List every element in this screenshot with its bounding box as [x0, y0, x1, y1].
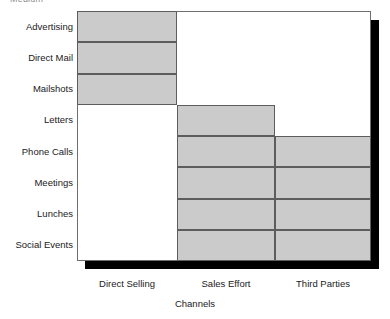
x-axis-title: Channels — [0, 298, 390, 309]
matrix-cell-filled — [275, 136, 371, 167]
row-label: Direct Mail — [0, 53, 73, 63]
row-label: Letters — [0, 115, 73, 125]
matrix-cell-empty — [275, 74, 371, 105]
matrix-cell-filled — [177, 199, 275, 230]
matrix-cell-filled — [77, 42, 177, 73]
chart-shadow-bottom — [85, 261, 379, 269]
row-label: Meetings — [0, 178, 73, 188]
matrix-cell-empty — [275, 11, 371, 42]
matrix-cell-empty — [77, 199, 177, 230]
row-label: Phone Calls — [0, 147, 73, 157]
row-label: Advertising — [0, 22, 73, 32]
matrix-cell-filled — [275, 230, 371, 261]
matrix-cell-empty — [275, 42, 371, 73]
matrix-cell-empty — [177, 74, 275, 105]
matrix-cell-empty — [77, 105, 177, 136]
row-label: Mailshots — [0, 84, 73, 94]
matrix-cell-filled — [77, 74, 177, 105]
matrix-cell-filled — [177, 136, 275, 167]
matrix-cell-empty — [177, 11, 275, 42]
matrix-cell-empty — [77, 230, 177, 261]
chart-shadow-right — [371, 20, 379, 269]
y-axis-title: Medium — [10, 0, 43, 4]
row-label: Lunches — [0, 209, 73, 219]
matrix-cell-empty — [77, 167, 177, 198]
row-label: Social Events — [0, 240, 73, 250]
matrix-cell-filled — [77, 11, 177, 42]
matrix-chart — [77, 11, 371, 261]
matrix-cell-filled — [177, 230, 275, 261]
matrix-cell-filled — [177, 167, 275, 198]
matrix-cell-empty — [177, 42, 275, 73]
matrix-cell-filled — [275, 199, 371, 230]
matrix-cell-empty — [77, 136, 177, 167]
column-label: Third Parties — [253, 279, 390, 289]
matrix-cell-filled — [177, 105, 275, 136]
matrix-cell-filled — [275, 167, 371, 198]
matrix-cell-empty — [275, 105, 371, 136]
